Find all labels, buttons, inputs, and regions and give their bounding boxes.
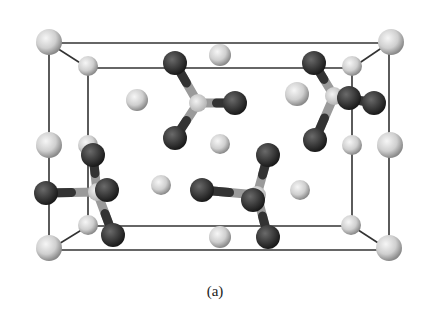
cation-sphere — [378, 29, 404, 55]
anion-atom — [256, 143, 280, 167]
cation-sphere — [151, 175, 171, 195]
anion-atom — [101, 223, 125, 247]
anion-atom — [337, 86, 361, 110]
cation-sphere — [377, 132, 403, 158]
anion-atom — [163, 51, 187, 75]
anion-atom — [95, 178, 119, 202]
cation-sphere — [290, 180, 310, 200]
anion-atom — [34, 181, 58, 205]
cation-sphere — [209, 226, 231, 248]
cation-sphere — [341, 215, 361, 235]
anion-atom — [241, 188, 265, 212]
cation-sphere — [78, 56, 98, 76]
cation-sphere — [78, 215, 98, 235]
anion-atom — [223, 91, 247, 115]
central-atom — [189, 94, 207, 112]
anion-atom — [190, 178, 214, 202]
cation-sphere — [36, 29, 62, 55]
cation-sphere — [36, 235, 62, 261]
cation-sphere — [126, 89, 148, 111]
cation-sphere — [36, 132, 62, 158]
anion-atom — [256, 225, 280, 249]
anion-atom — [302, 51, 326, 75]
cation-sphere — [342, 135, 362, 155]
anion-atom — [81, 143, 105, 167]
anion-atom — [362, 91, 386, 115]
crystal-structure-diagram — [0, 0, 430, 320]
cation-sphere — [210, 134, 230, 154]
cation-sphere — [209, 44, 231, 66]
cation-sphere — [376, 235, 402, 261]
figure-caption: (a) — [0, 283, 430, 300]
anion-atom — [163, 126, 187, 150]
cation-sphere — [285, 82, 309, 106]
anion-atom — [303, 128, 327, 152]
cation-sphere — [342, 56, 362, 76]
